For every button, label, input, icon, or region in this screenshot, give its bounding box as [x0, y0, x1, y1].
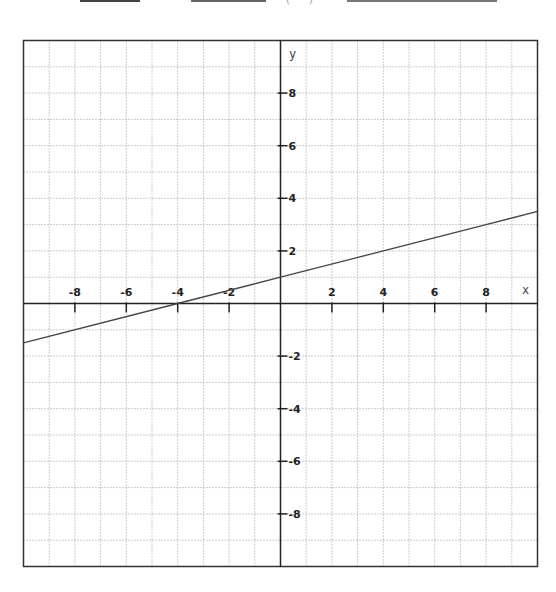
x-tick-label: 2	[328, 286, 336, 299]
x-tick-label: -4	[172, 286, 185, 299]
y-tick-label: 8	[289, 87, 297, 100]
y-tick-label: -6	[289, 455, 302, 468]
x-tick-label: -8	[69, 286, 81, 299]
y-tick-label: -2	[289, 350, 301, 363]
coordinate-plane-chart: -8-6-4-224688642-2-4-6-8 x y	[0, 0, 556, 592]
y-tick-label: 4	[289, 192, 297, 205]
y-tick-label: -4	[289, 403, 302, 416]
x-tick-label: 8	[482, 286, 490, 299]
x-tick-label: 4	[379, 286, 387, 299]
x-tick-label: 6	[431, 286, 439, 299]
x-tick-label: -6	[120, 286, 133, 299]
y-tick-label: -8	[289, 508, 301, 521]
y-tick-label: 2	[289, 245, 297, 258]
x-axis-label: x	[522, 283, 529, 297]
y-axis-label: y	[289, 47, 296, 61]
y-tick-label: 6	[289, 140, 297, 153]
